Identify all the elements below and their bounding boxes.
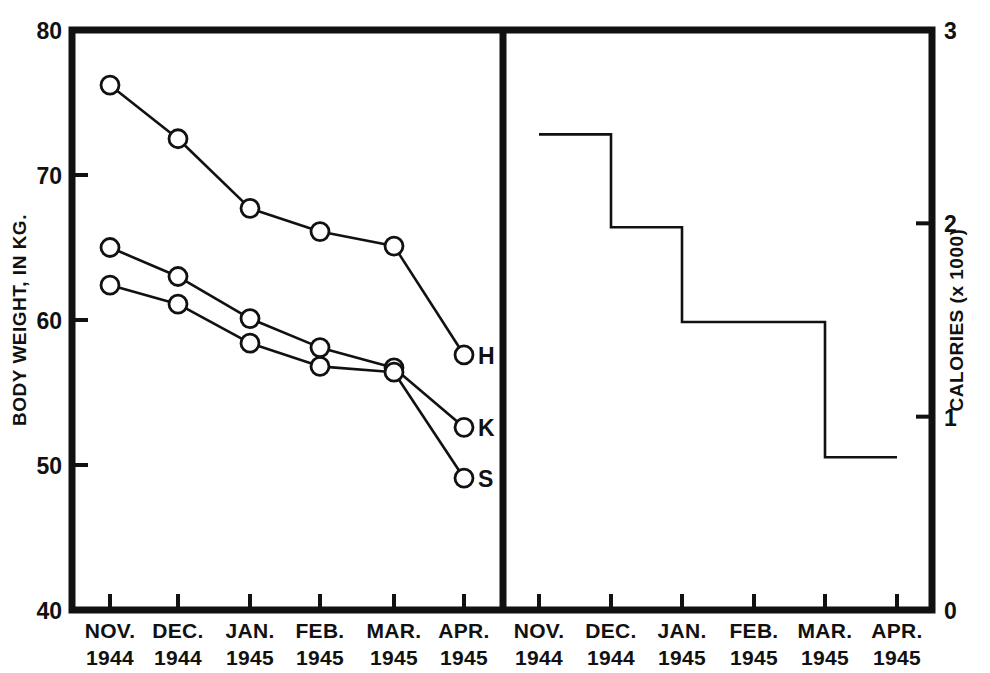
weight-line-segment	[117, 91, 171, 134]
right-x-tick-month: DEC.	[585, 619, 636, 642]
right-x-tick-year: 1945	[873, 646, 921, 669]
right-x-tick-year: 1944	[587, 646, 635, 669]
weight-marker	[101, 76, 119, 94]
weight-line-segment	[329, 350, 386, 366]
weight-line-segment	[259, 346, 312, 364]
weight-series-H: H	[101, 76, 495, 369]
right-x-tick-month: APR.	[871, 619, 922, 642]
calorie-step-line	[539, 134, 897, 457]
right-x-tick-month: NOV.	[514, 619, 565, 642]
weight-series-label-S: S	[478, 466, 493, 492]
weight-line-segment	[186, 308, 242, 339]
left-x-tick-month: APR.	[438, 619, 489, 642]
two-panel-chart: 8070605040BODY WEIGHT, IN KG.NOV.1944DEC…	[0, 0, 990, 673]
left-y-tick-label: 60	[36, 308, 62, 334]
weight-series-label-H: H	[478, 343, 495, 369]
weight-line-segment	[329, 233, 385, 244]
right-y-tick-label: 0	[944, 598, 957, 624]
right-x-tick-month: JAN.	[657, 619, 706, 642]
weight-marker	[385, 363, 403, 381]
left-y-tick-label: 70	[36, 163, 62, 189]
weight-marker	[101, 239, 119, 257]
left-x-tick-year: 1945	[226, 646, 274, 669]
left-x-tick-month: JAN.	[225, 619, 274, 642]
weight-marker	[169, 295, 187, 313]
weight-line-segment	[119, 288, 170, 302]
weight-line-segment	[118, 251, 169, 273]
weight-line-segment	[259, 211, 312, 229]
weight-marker	[311, 223, 329, 241]
right-x-tick-year: 1945	[658, 646, 706, 669]
left-y-tick-label: 50	[36, 453, 62, 479]
weight-line-segment	[399, 380, 459, 471]
left-x-tick-month: FEB.	[295, 619, 344, 642]
left-y-axis: 8070605040	[36, 18, 88, 624]
left-y-tick-label: 80	[36, 18, 62, 44]
weight-marker	[169, 268, 187, 286]
weight-marker	[311, 339, 329, 357]
right-y-axis-label: CALORIES (x 1000)	[946, 229, 967, 412]
figure-root: 8070605040BODY WEIGHT, IN KG.NOV.1944DEC…	[0, 0, 990, 673]
weight-series-label-K: K	[478, 415, 495, 441]
weight-line-segment	[258, 322, 311, 344]
left-y-axis-label: BODY WEIGHT, IN KG.	[9, 214, 30, 426]
right-y-tick-label: 3	[944, 18, 957, 44]
weight-marker	[455, 418, 473, 436]
weight-series-K: K	[101, 239, 495, 442]
plot-frame	[72, 30, 932, 610]
weight-marker	[241, 199, 259, 217]
weight-line-segment	[184, 145, 243, 202]
left-x-tick-month: NOV.	[85, 619, 136, 642]
left-x-tick-month: MAR.	[367, 619, 422, 642]
weight-series-group: HKS	[101, 76, 495, 492]
left-x-tick-year: 1945	[296, 646, 344, 669]
right-x-tick-year: 1945	[730, 646, 778, 669]
left-y-tick-label: 40	[36, 598, 62, 624]
weight-marker	[241, 334, 259, 352]
weight-line-segment	[186, 281, 242, 314]
right-x-axis: NOV.1944DEC.1944JAN.1945FEB.1945MAR.1945…	[514, 594, 923, 669]
right-x-tick-year: 1945	[801, 646, 849, 669]
weight-marker	[101, 276, 119, 294]
right-x-tick-month: FEB.	[729, 619, 778, 642]
left-x-axis: NOV.1944DEC.1944JAN.1945FEB.1945MAR.1945…	[85, 594, 490, 669]
weight-marker	[455, 346, 473, 364]
weight-marker	[169, 130, 187, 148]
left-x-tick-year: 1945	[440, 646, 488, 669]
weight-marker	[455, 469, 473, 487]
left-x-tick-year: 1945	[370, 646, 418, 669]
right-x-tick-year: 1944	[515, 646, 563, 669]
weight-marker	[311, 357, 329, 375]
weight-line-segment	[399, 254, 459, 348]
right-x-tick-month: MAR.	[798, 619, 853, 642]
left-x-tick-month: DEC.	[152, 619, 203, 642]
left-x-tick-year: 1944	[154, 646, 202, 669]
weight-line-segment	[329, 367, 385, 371]
left-x-tick-year: 1944	[86, 646, 134, 669]
weight-marker	[385, 237, 403, 255]
weight-marker	[241, 310, 259, 328]
